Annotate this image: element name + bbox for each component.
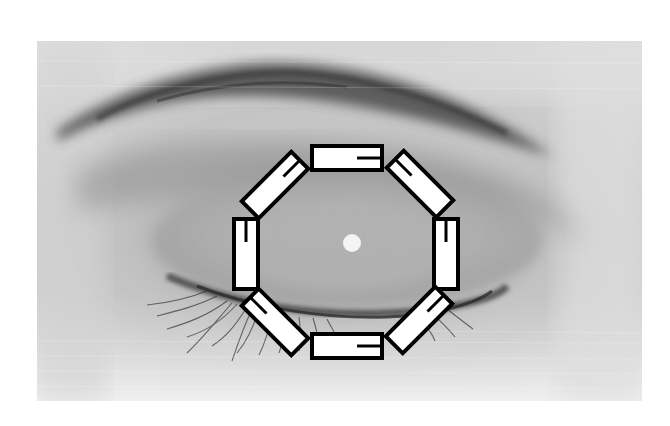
electrode-left (234, 219, 258, 289)
electrode-bottom-left (242, 289, 308, 355)
electrode-top-left (242, 152, 308, 218)
electrode-bottom (312, 334, 382, 358)
electrode-overlay (0, 0, 670, 426)
electrode-right (434, 219, 458, 289)
corneal-reflection-dot (343, 234, 361, 252)
electrode-bottom-right (386, 287, 452, 353)
electrode-top-right (387, 151, 453, 217)
electrode-top (312, 146, 382, 170)
